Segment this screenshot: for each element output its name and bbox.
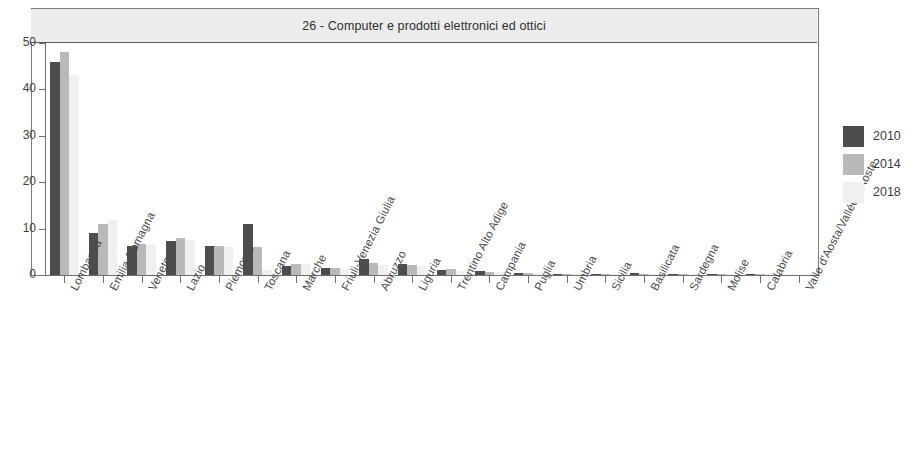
legend-item-2014[interactable]: 2014 [843, 150, 913, 178]
y-axis-tick-label: 40 [6, 81, 36, 95]
x-axis-tick [103, 276, 104, 283]
legend-item-2010[interactable]: 2010 [843, 122, 913, 150]
y-axis-tick-label: 10 [6, 221, 36, 235]
y-axis-tick [39, 43, 46, 44]
x-axis-tick [64, 276, 65, 283]
y-axis-tick [39, 136, 46, 137]
x-axis-tick [605, 276, 606, 283]
y-axis-tick-label-wrap: 50 [0, 43, 36, 44]
y-axis-tick-label-wrap: 10 [0, 229, 36, 230]
y-axis-tick-label: 30 [6, 128, 36, 142]
x-axis-tick [258, 276, 259, 283]
chart-page: 26 - Computer e prodotti elettronici ed … [0, 0, 913, 473]
x-axis-tick [451, 276, 452, 283]
plot-frame [31, 8, 819, 276]
legend-label-2018: 2018 [873, 185, 901, 199]
y-axis-tick-label-wrap: 40 [0, 89, 36, 90]
legend-swatch-2014 [843, 154, 864, 175]
chart-legend: 201020142018 [843, 122, 913, 206]
chart-title: 26 - Computer e prodotti elettronici ed … [302, 19, 546, 33]
y-axis-tick-label: 0 [6, 267, 36, 281]
x-axis-tick [335, 276, 336, 283]
y-axis-tick-label-wrap: 20 [0, 182, 36, 183]
x-axis-tick [180, 276, 181, 283]
x-axis-tick [142, 276, 143, 283]
y-axis-tick-label-wrap: 30 [0, 136, 36, 137]
x-axis-tick [296, 276, 297, 283]
y-axis-tick-label: 20 [6, 174, 36, 188]
y-axis-line [45, 43, 46, 276]
legend-swatch-2018 [843, 182, 864, 203]
legend-label-2014: 2014 [873, 157, 901, 171]
x-axis-tick [644, 276, 645, 283]
y-axis-tick [39, 182, 46, 183]
y-axis-tick [39, 89, 46, 90]
y-axis-tick-label: 50 [6, 35, 36, 49]
x-axis-tick [567, 276, 568, 283]
y-axis-tick [39, 275, 46, 276]
chart-title-band: 26 - Computer e prodotti elettronici ed … [31, 9, 817, 43]
legend-item-2018[interactable]: 2018 [843, 178, 913, 206]
x-axis-tick [721, 276, 722, 283]
x-axis-tick [374, 276, 375, 283]
y-axis-tick [39, 229, 46, 230]
x-axis-tick [489, 276, 490, 283]
legend-label-2010: 2010 [873, 129, 901, 143]
x-axis-tick [799, 276, 800, 283]
x-axis-tick [528, 276, 529, 283]
x-axis-tick [412, 276, 413, 283]
y-axis-tick-label-wrap: 0 [0, 275, 36, 276]
x-axis-tick [760, 276, 761, 283]
x-axis-tick [683, 276, 684, 283]
legend-swatch-2010 [843, 126, 864, 147]
x-axis-tick [219, 276, 220, 283]
